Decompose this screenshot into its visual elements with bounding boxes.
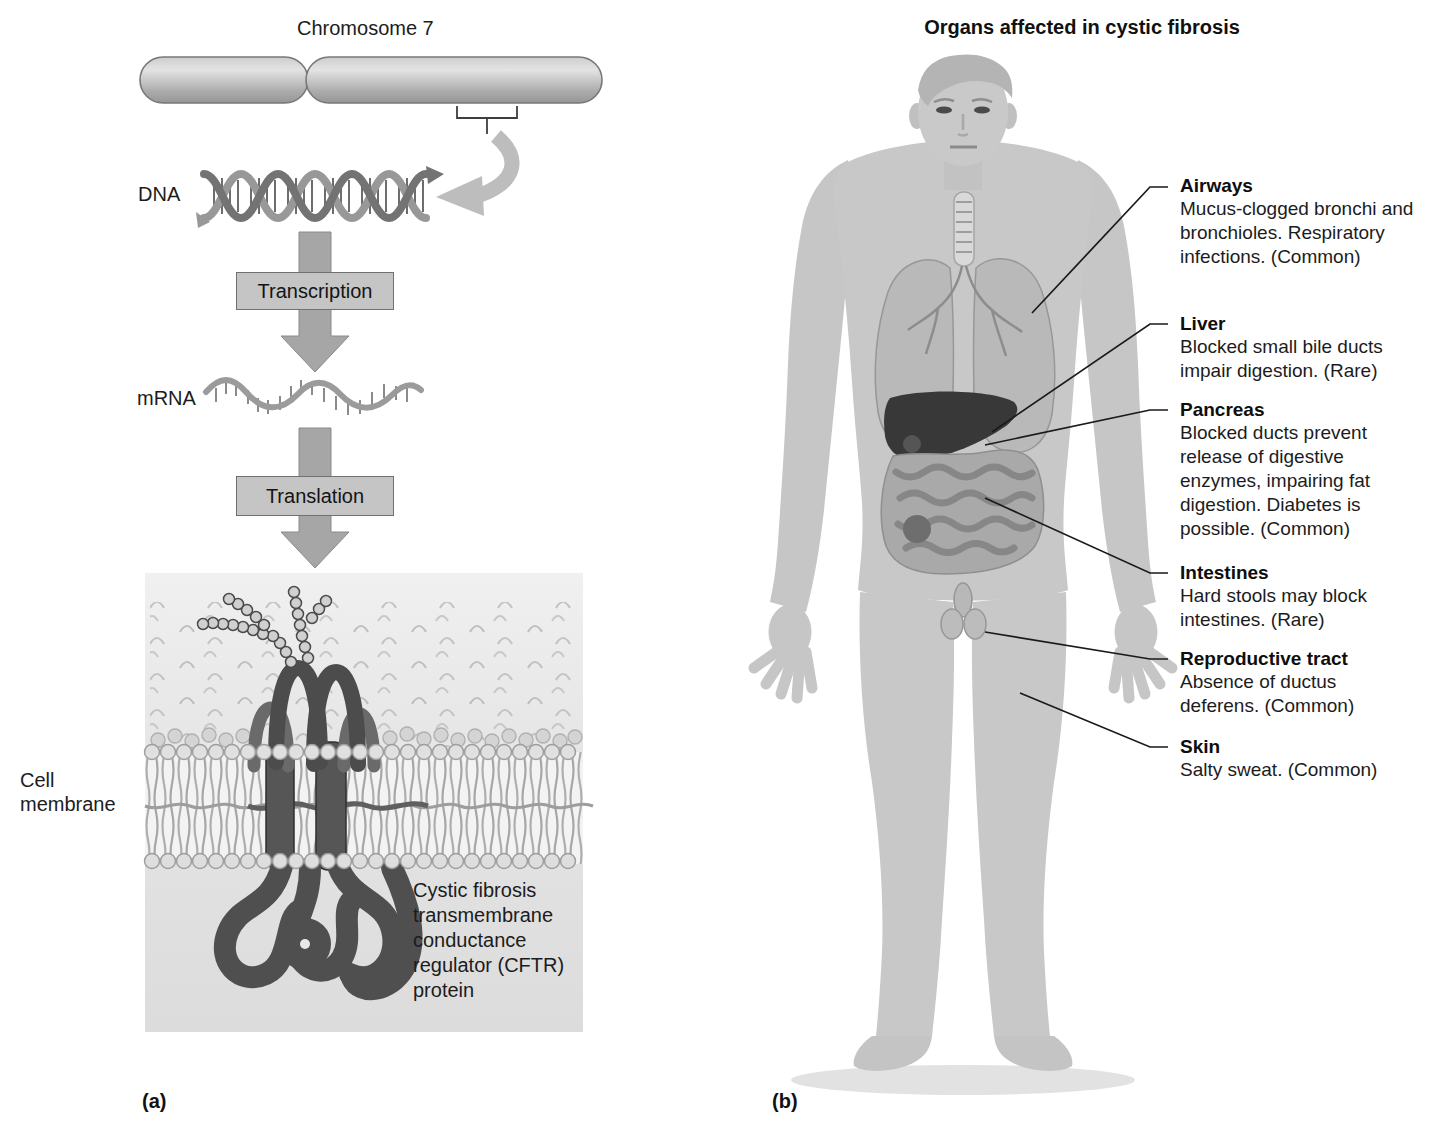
organ-label-airways: Airways Mucus-clogged bronchi and bronch… — [1180, 174, 1420, 269]
mrna-label: mRNA — [137, 386, 196, 410]
reproductive-tract-name: Reproductive tract — [1180, 647, 1420, 670]
skin-name: Skin — [1180, 735, 1420, 758]
cftr-protein-caption: Cystic fibrosis transmembrane conductanc… — [413, 878, 591, 1003]
mrna-strand — [206, 380, 421, 415]
organ-label-pancreas: Pancreas Blocked ducts prevent release o… — [1180, 398, 1420, 541]
pancreas-description: Blocked ducts prevent release of digesti… — [1180, 421, 1420, 541]
dna-label: DNA — [138, 182, 180, 206]
liver-name: Liver — [1180, 312, 1420, 335]
panel-b-title: Organs affected in cystic fibrosis — [842, 16, 1322, 39]
human-body-illustration — [754, 55, 1172, 1096]
translation-box: Translation — [236, 476, 394, 516]
translation-label: Translation — [266, 485, 364, 508]
floor-shadow — [791, 1065, 1135, 1095]
chromosome-7-illustration — [140, 55, 602, 105]
skin-description: Salty sweat. (Common) — [1180, 758, 1420, 782]
reproductive-tract-description: Absence of ductus deferens. (Common) — [1180, 670, 1420, 718]
panel-a-label: (a) — [142, 1090, 166, 1113]
dna-helix — [196, 166, 444, 228]
trachea — [954, 192, 974, 266]
transcription-box: Transcription — [236, 272, 394, 310]
intestines-description: Hard stools may block intestines. (Rare) — [1180, 584, 1420, 632]
panel-b-label: (b) — [772, 1090, 798, 1113]
transcription-label: Transcription — [258, 280, 373, 303]
airways-name: Airways — [1180, 174, 1420, 197]
liver-description: Blocked small bile ducts impair digestio… — [1180, 335, 1420, 383]
organ-label-skin: Skin Salty sweat. (Common) — [1180, 735, 1420, 782]
cell-membrane-label: Cell membrane — [20, 768, 132, 816]
figure-cystic-fibrosis: Chromosome 7 DNA Transcription mRNA Tran… — [0, 0, 1450, 1137]
intestines-name: Intestines — [1180, 561, 1420, 584]
pancreas-name: Pancreas — [1180, 398, 1420, 421]
gene-to-dna-arrow — [436, 136, 512, 216]
organ-label-intestines: Intestines Hard stools may block intesti… — [1180, 561, 1420, 632]
chromosome-7-label: Chromosome 7 — [297, 16, 434, 40]
organ-label-reproductive-tract: Reproductive tract Absence of ductus def… — [1180, 647, 1420, 718]
intestines — [881, 450, 1043, 574]
airways-description: Mucus-clogged bronchi and bronchioles. R… — [1180, 197, 1420, 269]
organ-label-liver: Liver Blocked small bile ducts impair di… — [1180, 312, 1420, 383]
gene-locus-bracket — [457, 106, 517, 134]
